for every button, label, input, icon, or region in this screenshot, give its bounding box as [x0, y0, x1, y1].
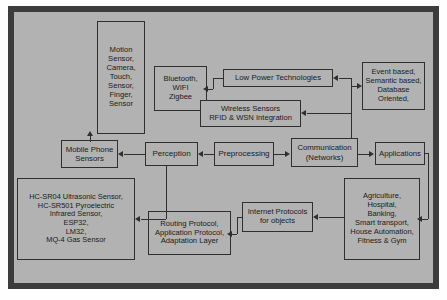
mobile-line-2: Sensors	[64, 154, 115, 163]
conn-perception-to-mobile	[124, 154, 145, 155]
bluetooth-line-3: Zigbee	[157, 93, 204, 102]
ip-line-2: for objects	[245, 217, 310, 226]
arrowhead-wireless-left	[301, 110, 306, 116]
node-preprocessing: Preprocessing	[214, 142, 274, 166]
communication-line-1: Communication	[294, 143, 355, 152]
node-hardware-sensors: HC-SR04 Ultrasonic Sensor, HC-SR501 Pyro…	[17, 178, 135, 260]
conn-domains-to-ip	[319, 217, 344, 218]
motion-line-7: Sensor	[100, 100, 142, 109]
conn-ip-to-routing-h1	[237, 217, 242, 218]
conn-communication-riser	[351, 78, 352, 138]
conn-communication-to-applications	[358, 154, 369, 155]
preprocessing-label: Preprocessing	[217, 149, 271, 158]
arrowhead-communication-right	[285, 151, 290, 157]
conn-applications-to-domains-h	[422, 219, 428, 220]
conn-mobile-to-motion	[90, 136, 91, 142]
arrowhead-applications-right	[369, 151, 374, 157]
conn-ip-to-routing-h2	[232, 234, 237, 235]
arrowhead-motion-up	[87, 131, 93, 136]
event-line-4: Oriented,	[365, 95, 422, 104]
diagram-canvas: Motion Sensor, Camera, Touch, Sensor, Fi…	[14, 12, 433, 283]
arrowhead-event-based-right	[357, 83, 362, 89]
node-internet-protocols: Internet Protocols for objects	[242, 202, 313, 232]
arrowhead-routing-left	[227, 231, 232, 237]
arrowhead-low-power-left	[333, 75, 338, 81]
mobile-line-1: Mobile Phone	[64, 145, 115, 154]
node-perception: Perception	[145, 142, 198, 166]
arrowhead-bluetooth-left	[203, 86, 208, 92]
conn-preprocessing-to-perception	[204, 154, 214, 155]
low-power-label: Low Power Technologies	[226, 73, 330, 82]
routing-line-3: Adaptation Layer	[151, 237, 228, 246]
conn-ip-to-routing-v	[237, 217, 238, 234]
wireless-line-2: RFID & WSN Integration	[203, 114, 298, 123]
communication-line-2: (Networks)	[294, 153, 355, 162]
node-wireless-sensors: Wireless Sensors RFID & WSN Integration	[200, 100, 301, 127]
conn-perception-riser-down	[166, 166, 167, 219]
conn-riser-to-low-power	[339, 78, 351, 79]
node-applications: Applications	[375, 142, 425, 165]
conn-applications-to-domains-top	[425, 153, 428, 154]
arrowhead-mobile-left	[118, 151, 123, 157]
perception-label: Perception	[148, 149, 195, 158]
node-application-domains: Agriculture, Hospital, Banking, Smart tr…	[344, 178, 420, 260]
node-routing-protocol: Routing Protocol, Application Protocol, …	[148, 211, 231, 255]
node-event-based: Event based, Semantic based, Database Or…	[362, 62, 425, 110]
conn-lowpower-to-bluetooth-v	[213, 78, 214, 89]
node-low-power-technologies: Low Power Technologies	[223, 69, 333, 87]
hw-line-6: MQ-4 Gas Sensor	[20, 236, 132, 245]
applications-label: Applications	[378, 149, 422, 158]
conn-applications-right-drop	[428, 153, 429, 219]
conn-lowpower-to-bluetooth-h1	[213, 78, 223, 79]
node-motion-sensors: Motion Sensor, Camera, Touch, Sensor, Fi…	[97, 21, 145, 134]
node-mobile-phone-sensors: Mobile Phone Sensors	[61, 140, 118, 168]
arrowhead-ip-left	[313, 214, 318, 220]
arrowhead-hardware-left	[135, 216, 140, 222]
conn-riser-to-hardware	[141, 219, 166, 220]
conn-riser-to-wireless	[307, 113, 351, 114]
arrowhead-domains-left	[417, 216, 422, 222]
diagram-root: Motion Sensor, Camera, Touch, Sensor, Fi…	[0, 0, 447, 300]
conn-preprocessing-to-communication	[274, 154, 285, 155]
arrowhead-perception-left	[198, 151, 203, 157]
domain-line-6: Fitness & Gym	[347, 237, 417, 246]
node-communication: Communication (Networks)	[291, 138, 358, 167]
